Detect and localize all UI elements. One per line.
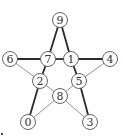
node-2: 2 [33,74,48,89]
node-4: 4 [103,52,118,67]
node-label: 0 [25,116,32,129]
node-label: 5 [76,75,83,88]
node-8: 8 [53,89,68,104]
edges-layer [10,20,110,122]
node-label: 9 [57,14,64,27]
node-3: 3 [83,115,98,130]
graph-diagram: 0123456789 [0,0,122,137]
node-5: 5 [72,74,87,89]
node-label: 6 [7,53,14,66]
node-1: 1 [64,52,79,67]
node-label: 7 [45,53,52,66]
node-6: 6 [3,52,18,67]
node-label: 1 [68,53,75,66]
node-7: 7 [41,52,56,67]
node-label: 8 [57,90,64,103]
nodes-layer: 0123456789 [3,13,118,130]
node-label: 4 [107,53,114,66]
corner-mark [1,133,3,135]
node-0: 0 [21,115,36,130]
node-label: 3 [87,116,94,129]
node-label: 2 [37,75,44,88]
node-9: 9 [53,13,68,28]
